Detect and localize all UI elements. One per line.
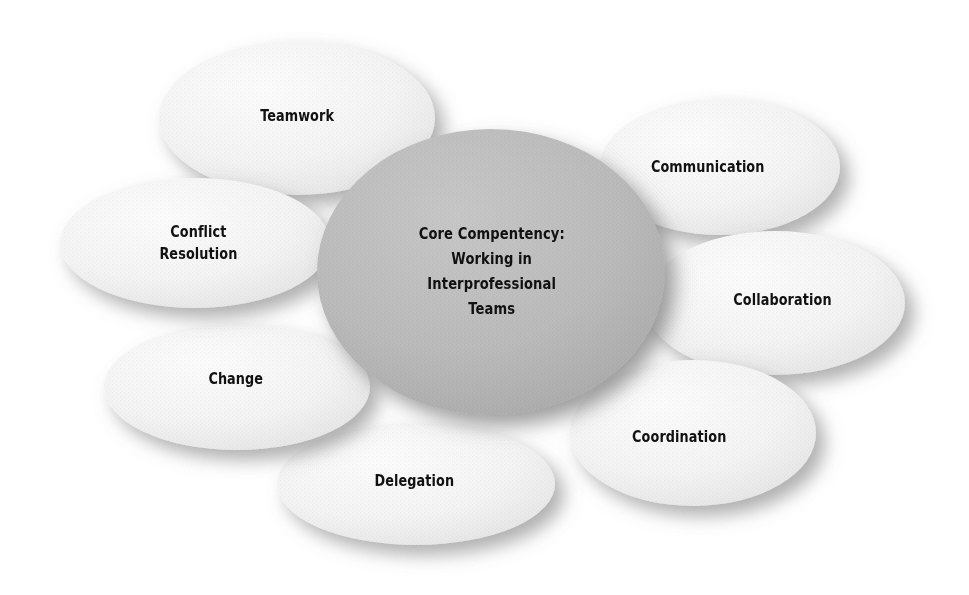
- ellipse-change[interactable]: [104, 324, 370, 450]
- ellipse-conflict-resolution[interactable]: [60, 178, 330, 308]
- ellipse-delegation[interactable]: [277, 423, 555, 545]
- diagram-canvas: [0, 0, 969, 595]
- ellipse-collaboration[interactable]: [645, 231, 905, 375]
- ellipse-core-competency[interactable]: [317, 129, 665, 415]
- ellipse-coordination[interactable]: [570, 360, 816, 506]
- core-competency-diagram: TeamworkCommunicationCollaborationCoordi…: [0, 0, 969, 595]
